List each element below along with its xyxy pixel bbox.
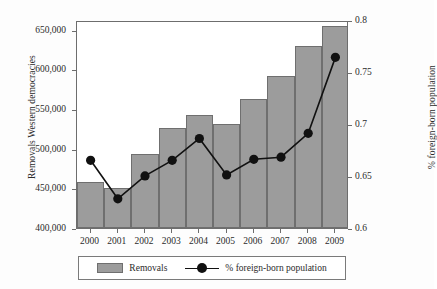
bar-2006 <box>240 99 267 228</box>
y-left-tick-mark <box>72 229 76 230</box>
x-tick-mark <box>144 229 145 233</box>
x-tick-mark <box>253 229 254 233</box>
y-right-tick-mark <box>348 177 352 178</box>
legend-label-foreign-born: % foreign-born population <box>225 263 326 273</box>
marker-2000 <box>86 156 95 165</box>
x-tick-mark <box>334 229 335 233</box>
y-left-tick-label-500000: 500,000 <box>20 144 66 154</box>
bar-2005 <box>213 124 240 228</box>
x-tick-mark <box>90 229 91 233</box>
legend-item-foreign-born: % foreign-born population <box>185 263 326 273</box>
y-left-tick-label-550000: 550,000 <box>20 104 66 114</box>
bar-2004 <box>186 115 213 228</box>
x-tick-mark <box>226 229 227 233</box>
y-left-tick-label-450000: 450,000 <box>20 183 66 193</box>
y-right-tick-label-0-6: 0.6 <box>355 223 395 233</box>
bar-2007 <box>267 76 294 228</box>
x-tick-mark <box>280 229 281 233</box>
legend-label-removals: Removals <box>129 263 167 273</box>
x-tick-mark <box>198 229 199 233</box>
chart-legend: Removals % foreign-born population <box>78 256 346 280</box>
x-tick-mark <box>117 229 118 233</box>
legend-item-removals: Removals <box>97 263 167 273</box>
y-left-tick-label-600000: 600,000 <box>20 64 66 74</box>
x-tick-mark <box>171 229 172 233</box>
legend-bar-swatch-icon <box>97 263 123 273</box>
y-right-tick-label-0-65: 0.65 <box>355 171 395 181</box>
bar-2002 <box>131 154 158 228</box>
bar-2009 <box>322 26 348 228</box>
bar-2003 <box>159 128 186 228</box>
y-right-tick-label-0-75: 0.75 <box>355 67 395 77</box>
legend-line-marker-icon <box>185 263 219 273</box>
y-right-tick-mark <box>348 73 352 74</box>
y-left-tick-label-650000: 650,000 <box>20 25 66 35</box>
y-left-tick-label-400000: 400,000 <box>20 223 66 233</box>
y-axis-right-title: % foreign-born population <box>427 22 437 212</box>
bar-2001 <box>104 188 131 228</box>
y-right-tick-mark <box>348 229 352 230</box>
y-right-tick-mark <box>348 21 352 22</box>
y-right-tick-label-0-8: 0.8 <box>355 15 395 25</box>
bar-2000 <box>77 182 104 228</box>
y-right-tick-mark <box>348 125 352 126</box>
x-tick-mark <box>307 229 308 233</box>
bar-2008 <box>295 46 322 228</box>
plot-area <box>76 21 348 229</box>
y-right-tick-label-0-7: 0.7 <box>355 119 395 129</box>
x-tick-label-2009: 2009 <box>314 236 354 246</box>
